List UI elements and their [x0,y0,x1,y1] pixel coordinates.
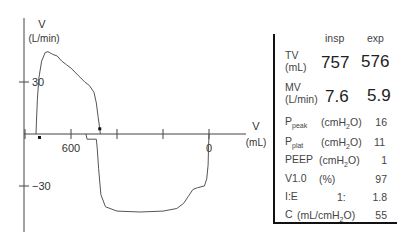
series-expiration [86,134,209,212]
x-axis-unit: (mL) [246,137,267,148]
marker-0 [98,127,101,130]
flow-volume-chart: 6000 30−30 V (L/min) V (mL) [0,0,270,234]
peep-label: PEEP [285,154,313,165]
ie-ratio-prefix: 1: [337,191,346,203]
marker-1 [38,136,41,139]
tv-unit: (mL) [285,62,307,73]
tv-insp-value: 757 [321,53,349,73]
v10-value: 97 [375,173,387,185]
peep-value: 1 [381,154,387,166]
c-unit: (mL/cmH2O) [297,209,355,223]
ppeak-value: 16 [375,116,387,128]
header-insp: insp [325,32,344,44]
measurements-panel: insp exp TV (mL) 757 576 MV (L/min) 7.6 … [273,34,397,224]
tv-row: TV (mL) 757 576 [275,48,397,76]
series-inspiration [36,52,100,134]
v10-unit: (%) [319,173,335,185]
ppeak-label: Ppeak [285,116,307,131]
mv-label: MV [285,82,301,93]
c-value: 55 [375,209,387,221]
ie-label: I:E [285,191,298,202]
tv-label: TV [285,50,298,61]
mv-insp-value: 7.6 [325,87,349,107]
ppeak-unit: (cmH2O) [321,116,362,130]
x-axis-label: V [252,120,260,132]
ie-value: 1.8 [372,191,387,203]
y-axis-label: V [38,18,46,30]
x-tick-label-600: 600 [62,142,80,154]
mv-unit: (L/min) [285,94,318,105]
pplat-unit: (cmH2O) [321,136,362,150]
c-label: C [285,209,293,220]
y-tick-label--30: −30 [32,180,51,192]
y-axis-unit: (L/min) [28,33,59,44]
mv-exp-value: 5.9 [367,86,391,106]
tv-exp-value: 576 [361,52,389,72]
header-exp: exp [367,32,384,44]
mv-row: MV (L/min) 7.6 5.9 [275,80,397,108]
v10-label: V1.0 [285,173,307,184]
pplat-value: 11 [374,136,385,148]
pplat-label: Pplat [285,136,303,151]
peep-unit: (cmH2O) [319,154,360,168]
